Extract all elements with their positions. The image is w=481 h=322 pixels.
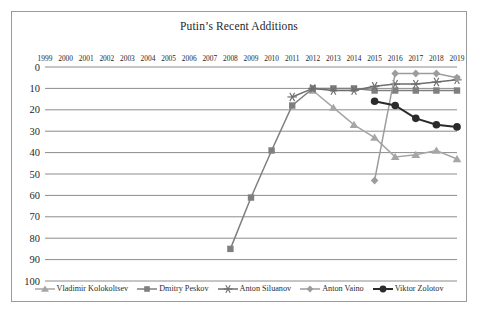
series-anton-vaino [371, 69, 461, 184]
x-axis-tick-label: 2001 [79, 54, 94, 63]
marker-square [289, 102, 295, 108]
y-axis-tick-label: 70 [30, 211, 41, 222]
legend-marker-triangle-icon [35, 284, 55, 294]
series-line [230, 88, 457, 249]
y-axis-tick-label: 20 [30, 104, 41, 115]
y-axis-tick-label: 0 [35, 62, 40, 73]
y-axis-tick-label: 30 [30, 126, 41, 137]
legend-item-label: Viktor Zolotov [395, 285, 444, 293]
legend-item-label: Vladimir Kolokoltsev [57, 285, 129, 293]
x-axis-tick-label: 2011 [285, 54, 300, 63]
x-axis-tick-label: 2004 [141, 54, 156, 63]
marker-diamond [307, 285, 314, 292]
x-axis-tick-label: 2005 [161, 54, 176, 63]
legend-marker-square-icon [137, 284, 157, 294]
marker-triangle [370, 134, 379, 141]
marker-asterisk [432, 78, 442, 86]
x-axis-tick-label: 2006 [182, 54, 197, 63]
marker-asterisk [411, 80, 421, 88]
x-axis-tick-label: 2013 [326, 54, 341, 63]
marker-diamond [371, 176, 379, 184]
legend-item-label: Anton Siluanov [240, 285, 292, 293]
marker-circle [433, 121, 441, 129]
series-viktor-zolotov [371, 97, 461, 130]
chart-card: Putin’s Recent Additions 010203040506070… [11, 11, 467, 302]
marker-circle [391, 102, 399, 110]
legend-item-label: Anton Vaino [322, 285, 363, 293]
x-axis-tick-label: 2010 [264, 54, 279, 63]
x-axis-tick-label: 2009 [244, 54, 259, 63]
marker-diamond [391, 69, 399, 77]
x-axis-tick-label: 2019 [450, 54, 465, 63]
x-axis-tick-label: 2016 [388, 54, 403, 63]
legend-marker-circle-icon [373, 284, 393, 294]
marker-triangle [453, 155, 462, 162]
legend-item[interactable]: Anton Vaino [300, 284, 363, 294]
line-chart-plot: 0102030405060708090100199920002001200220… [12, 12, 468, 303]
marker-square [268, 147, 274, 153]
marker-triangle [432, 146, 441, 153]
marker-circle [412, 115, 420, 123]
y-axis-tick-label: 10 [30, 83, 41, 94]
marker-square [227, 246, 233, 252]
y-axis-tick-label: 80 [30, 233, 41, 244]
marker-diamond [433, 69, 441, 77]
x-axis-tick-label: 2017 [408, 54, 423, 63]
marker-circle [379, 286, 386, 293]
x-axis-tick-label: 2014 [347, 54, 362, 63]
legend-marker-diamond-icon [300, 284, 320, 294]
x-axis-tick-label: 2008 [223, 54, 238, 63]
x-axis-tick-label: 2012 [305, 54, 320, 63]
marker-square [454, 87, 460, 93]
legend-marker-asterisk-icon [218, 284, 238, 294]
x-axis-tick-label: 2003 [120, 54, 135, 63]
y-axis-tick-label: 50 [30, 169, 41, 180]
x-axis-tick-label: 1999 [38, 54, 53, 63]
y-axis-tick-label: 60 [30, 190, 41, 201]
legend-item-label: Dmitry Peskov [159, 285, 208, 293]
x-axis-tick-label: 2002 [99, 54, 114, 63]
marker-square [248, 194, 254, 200]
marker-square [433, 87, 439, 93]
x-axis-tick-label: 2015 [367, 54, 382, 63]
marker-diamond [412, 69, 420, 77]
legend-item[interactable]: Anton Siluanov [218, 284, 292, 294]
legend-item[interactable]: Dmitry Peskov [137, 284, 208, 294]
marker-square [371, 87, 377, 93]
marker-asterisk [223, 285, 232, 293]
marker-circle [453, 123, 461, 131]
chart-legend: Vladimir KolokoltsevDmitry PeskovAnton S… [12, 284, 466, 294]
marker-circle [371, 97, 379, 105]
legend-item[interactable]: Vladimir Kolokoltsev [35, 284, 129, 294]
x-axis-tick-label: 2007 [202, 54, 217, 63]
legend-item[interactable]: Viktor Zolotov [373, 284, 444, 294]
x-axis-tick-label: 2000 [58, 54, 73, 63]
marker-square [144, 286, 150, 292]
x-axis-tick-label: 2018 [429, 54, 444, 63]
y-axis-tick-label: 90 [30, 254, 41, 265]
marker-asterisk [287, 93, 297, 101]
y-axis-tick-label: 40 [30, 147, 41, 158]
